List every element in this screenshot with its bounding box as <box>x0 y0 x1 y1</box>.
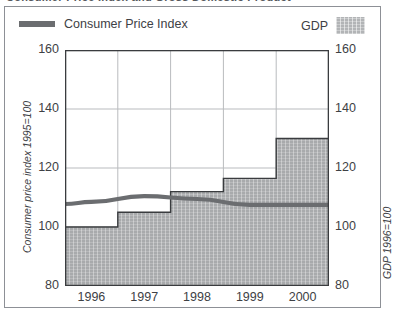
plot-area: 8010012014016080100120140160199619971998… <box>65 50 329 286</box>
y-axis-title-right: GDP 1996=100 <box>381 207 393 279</box>
x-tick-label: 2000 <box>280 290 326 304</box>
chart-legend: Consumer Price Index GDP <box>5 13 380 39</box>
y-tick-label-left: 140 <box>33 101 59 115</box>
y-tick-label-right: 120 <box>335 160 361 174</box>
y-tick-label-left: 120 <box>33 160 59 174</box>
legend-item-gdp: GDP <box>301 17 365 34</box>
x-tick-label: 1999 <box>227 290 273 304</box>
legend-label-gdp: GDP <box>301 19 328 33</box>
legend-label-cpi: Consumer Price Index <box>64 17 188 31</box>
chart-canvas <box>65 50 329 286</box>
y-tick-label-left: 160 <box>33 42 59 56</box>
y-tick-label-right: 140 <box>335 101 361 115</box>
y-tick-label-right: 100 <box>335 219 361 233</box>
y-tick-label-right: 80 <box>335 278 361 292</box>
y-tick-label-left: 80 <box>33 278 59 292</box>
line-swatch-icon <box>19 21 55 27</box>
page-title: Consumer Price Index and Gross Domestic … <box>6 0 291 3</box>
x-tick-label: 1998 <box>174 290 220 304</box>
legend-item-cpi: Consumer Price Index <box>19 17 188 31</box>
x-tick-label: 1996 <box>68 290 114 304</box>
chart-figure: Consumer Price Index GDP Consumer price … <box>4 6 381 308</box>
y-tick-label-right: 160 <box>335 42 361 56</box>
y-tick-label-left: 100 <box>33 219 59 233</box>
area-swatch-icon <box>336 17 365 34</box>
x-tick-label: 1997 <box>121 290 167 304</box>
y-axis-title-left: Consumer price index 1995=100 <box>21 101 33 253</box>
clipped-title-strip: Consumer Price Index and Gross Domestic … <box>0 0 389 5</box>
